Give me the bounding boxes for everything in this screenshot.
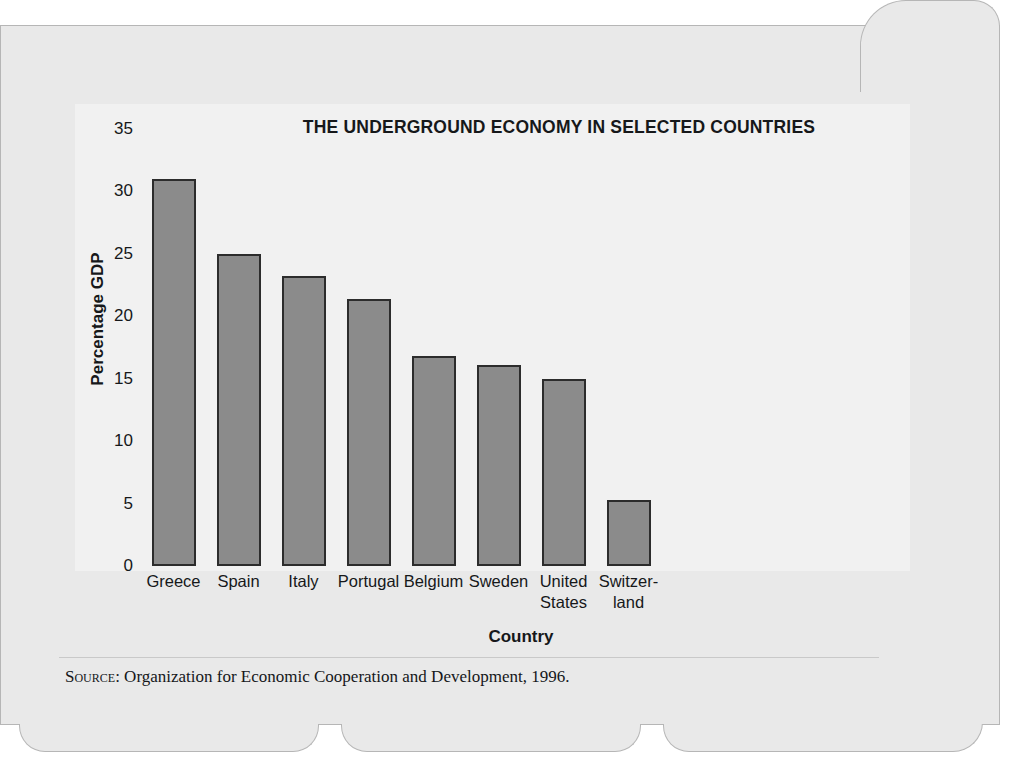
- y-tick-label: 0: [93, 556, 133, 576]
- bar: [282, 276, 326, 566]
- bar: [607, 500, 651, 566]
- bar-series: [141, 129, 901, 566]
- bar-slot: [206, 129, 271, 566]
- source-note: Source: Organization for Economic Cooper…: [65, 667, 569, 687]
- bar: [217, 254, 261, 566]
- x-tick-label: Portugal: [336, 571, 401, 613]
- y-tick-label: 20: [93, 306, 133, 326]
- y-tick-label: 15: [93, 369, 133, 389]
- x-tick-label: Greece: [141, 571, 206, 613]
- source-text: : Organization for Economic Cooperation …: [115, 667, 569, 686]
- y-tick-label: 30: [93, 181, 133, 201]
- bar-slot: [531, 129, 596, 566]
- x-axis-label: Country: [141, 627, 901, 647]
- y-axis-ticks: 35302520151050: [93, 129, 133, 566]
- y-tick-label: 25: [93, 244, 133, 264]
- x-tick-label: Switzer-land: [596, 571, 661, 613]
- bar-slot: [596, 129, 661, 566]
- y-tick-label: 35: [93, 119, 133, 139]
- bar-slot: [271, 129, 336, 566]
- bar: [477, 365, 521, 566]
- plot-area: 35302520151050: [141, 129, 901, 566]
- bar-slot: [141, 129, 206, 566]
- bar: [542, 379, 586, 566]
- page-bottom-tab-cover-3: [663, 690, 983, 724]
- page-bottom-tab-cover-1: [19, 690, 319, 724]
- bar: [152, 179, 196, 566]
- bar: [412, 356, 456, 566]
- x-axis-tick-labels: GreeceSpainItalyPortugalBelgiumSwedenUni…: [141, 571, 901, 613]
- bar-slot: [336, 129, 401, 566]
- y-tick-label: 5: [93, 494, 133, 514]
- bar-slot: [466, 129, 531, 566]
- page-bottom-tab-cover-2: [341, 690, 641, 724]
- scanned-page-sheet: THE UNDERGROUND ECONOMY IN SELECTED COUN…: [0, 25, 1000, 725]
- x-tick-label: Spain: [206, 571, 271, 613]
- bar-slot: [401, 129, 466, 566]
- bar: [347, 299, 391, 566]
- x-tick-label: Italy: [271, 571, 336, 613]
- y-tick-label: 10: [93, 431, 133, 451]
- x-tick-label: Belgium: [401, 571, 466, 613]
- x-tick-label: UnitedStates: [531, 571, 596, 613]
- x-tick-label: Sweden: [466, 571, 531, 613]
- page-corner-notch-fill: [861, 42, 999, 82]
- source-label: Source: [65, 667, 115, 686]
- bar-chart-figure: THE UNDERGROUND ECONOMY IN SELECTED COUN…: [59, 79, 939, 679]
- source-divider: [59, 657, 879, 658]
